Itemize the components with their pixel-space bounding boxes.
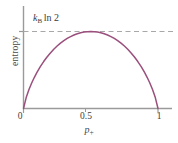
x-tick-label-1: 1 xyxy=(153,112,165,122)
plot-canvas xyxy=(0,0,178,143)
x-axis-label-subscript: + xyxy=(89,128,93,137)
annotation-ln2: ln 2 xyxy=(44,12,59,23)
entropy-plot-figure: kBln 2 entropy p+ 0 0.5 1 xyxy=(0,0,178,143)
x-tick-label-0_5: 0.5 xyxy=(75,112,97,122)
x-tick-label-0: 0 xyxy=(13,112,27,122)
x-axis-label: p+ xyxy=(0,125,178,136)
entropy-curve xyxy=(24,32,159,109)
max-entropy-annotation: kBln 2 xyxy=(33,13,59,25)
y-axis-label: entropy xyxy=(11,23,21,79)
annotation-b-subscript: B xyxy=(37,17,42,25)
